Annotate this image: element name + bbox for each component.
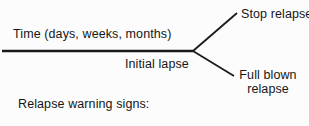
- initial-lapse-label: Initial lapse: [125, 57, 189, 71]
- relapse-process-diagram: Time (days, weeks, months) Initial lapse…: [0, 0, 309, 126]
- stop-relapse-label: Stop relapse: [241, 7, 309, 21]
- full-blown-branch-line: [193, 51, 234, 76]
- relapse-warning-signs-caption: Relapse warning signs:: [18, 97, 149, 111]
- full-blown-relapse-label: Full blown relapse: [236, 68, 300, 96]
- stop-relapse-branch-line: [193, 13, 237, 51]
- time-axis-label: Time (days, weeks, months): [13, 27, 171, 41]
